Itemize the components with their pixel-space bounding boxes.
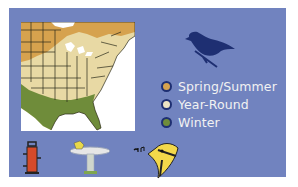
bird-feeder-icon <box>22 140 42 180</box>
legend-label: Year-Round <box>178 97 249 112</box>
legend-item-spring-summer: Spring/Summer <box>161 78 277 95</box>
bird-silhouette-icon <box>183 29 237 75</box>
legend-label: Winter <box>178 115 220 130</box>
legend: Spring/Summer Year-Round Winter <box>161 78 277 132</box>
winter-swatch <box>161 117 172 128</box>
range-map <box>21 22 135 131</box>
spring-summer-swatch <box>161 81 172 92</box>
bird-bath-icon <box>68 140 112 180</box>
range-map-graphic <box>21 22 135 131</box>
legend-item-winter: Winter <box>161 114 277 131</box>
legend-label: Spring/Summer <box>178 79 277 94</box>
singing-bird-icon <box>132 138 180 186</box>
year-round-swatch <box>161 99 172 110</box>
legend-item-year-round: Year-Round <box>161 96 277 113</box>
